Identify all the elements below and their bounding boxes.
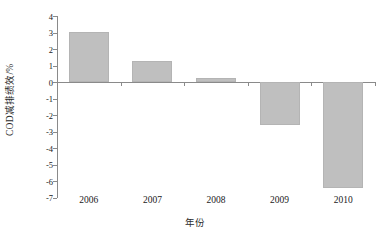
y-tick-label: -3 — [46, 128, 53, 137]
bar — [132, 61, 172, 82]
y-tick-mark — [53, 82, 57, 83]
y-tick-mark — [53, 99, 57, 100]
y-tick-label: 0 — [49, 78, 53, 87]
x-category-label: 2007 — [122, 196, 182, 206]
y-tick-label: 4 — [49, 12, 53, 21]
y-axis-title: COD减排绩效/% — [0, 0, 22, 200]
x-axis-title: 年份 — [0, 219, 390, 229]
x-category-label: 2010 — [313, 196, 373, 206]
x-tick-mark — [311, 82, 312, 86]
y-tick-label: 1 — [49, 62, 53, 71]
y-tick-mark — [53, 49, 57, 50]
x-category-label: 2006 — [59, 196, 119, 206]
y-tick-label: -4 — [46, 144, 53, 153]
bar — [69, 32, 109, 82]
y-tick-mark — [53, 115, 57, 116]
y-tick-label: -7 — [46, 194, 53, 203]
x-tick-mark — [375, 82, 376, 86]
y-axis-line — [57, 16, 58, 198]
bar — [323, 82, 363, 188]
y-tick-mark — [53, 198, 57, 199]
bar — [196, 78, 236, 82]
x-tick-mark — [248, 82, 249, 86]
plot-area: 43210-1-2-3-4-5-6-7 — [57, 16, 375, 198]
y-tick-mark — [53, 132, 57, 133]
x-category-label: 2008 — [186, 196, 246, 206]
y-tick-mark — [53, 66, 57, 67]
x-category-label: 2009 — [250, 196, 310, 206]
y-tick-label: 2 — [49, 45, 53, 54]
y-tick-label: -5 — [46, 161, 53, 170]
y-tick-label: 3 — [49, 29, 53, 38]
y-tick-mark — [53, 33, 57, 34]
y-tick-label: -2 — [46, 111, 53, 120]
x-tick-mark — [184, 82, 185, 86]
bar — [260, 82, 300, 125]
y-tick-mark — [53, 16, 57, 17]
y-tick-label: -6 — [46, 177, 53, 186]
y-tick-mark — [53, 148, 57, 149]
y-axis-title-text: COD减排绩效/% — [6, 64, 16, 136]
chart-figure: COD减排绩效/% 43210-1-2-3-4-5-6-7 2006200720… — [0, 0, 390, 248]
y-tick-label: -1 — [46, 95, 53, 104]
y-tick-mark — [53, 165, 57, 166]
y-tick-mark — [53, 181, 57, 182]
x-tick-mark — [121, 82, 122, 86]
